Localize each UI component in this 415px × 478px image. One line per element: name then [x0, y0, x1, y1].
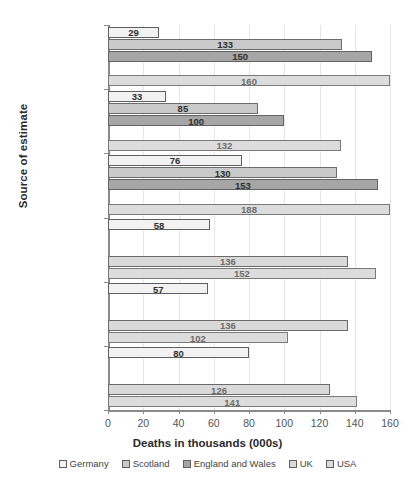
plot-area: 2913315016033851001327613015318858136152…: [108, 25, 390, 410]
x-axis-tick: [179, 410, 180, 414]
bar-uk[interactable]: [108, 384, 330, 395]
bar-row: 188: [108, 204, 390, 215]
bar-englandwales[interactable]: [108, 51, 372, 62]
bar-row: 133: [108, 39, 390, 50]
bar-row: 136: [108, 256, 390, 267]
bar-row: 102: [108, 332, 390, 343]
bar-usa[interactable]: [108, 268, 376, 279]
legend: GermanyScotlandEngland and WalesUKUSA: [0, 458, 415, 469]
bar-row: 29: [108, 27, 390, 38]
bar-usa[interactable]: [108, 75, 390, 86]
bar-row: 58: [108, 219, 390, 230]
bar-germany[interactable]: [108, 27, 159, 38]
x-axis-tick-label: 120: [311, 417, 329, 429]
bar-row: 150: [108, 51, 390, 62]
bar-row: 126: [108, 384, 390, 395]
legend-item-uk[interactable]: UK: [289, 458, 313, 469]
x-axis-tick-label: 40: [173, 417, 185, 429]
bar-row: 136: [108, 320, 390, 331]
bar-row: 160: [108, 75, 390, 86]
bar-row: 57: [108, 283, 390, 294]
x-axis-tick-label: 140: [346, 417, 364, 429]
legend-label: UK: [300, 458, 313, 469]
bar-row: 153: [108, 179, 390, 190]
x-axis-tick: [284, 410, 285, 414]
bar-row: 33: [108, 91, 390, 102]
bar-uk[interactable]: [108, 320, 348, 331]
x-axis-tick: [320, 410, 321, 414]
bar-row: 152: [108, 268, 390, 279]
bar-scotland[interactable]: [108, 103, 258, 114]
bar-englandwales[interactable]: [108, 179, 378, 190]
gridline: [390, 25, 391, 410]
x-axis-tick: [143, 410, 144, 414]
bar-usa[interactable]: [108, 396, 357, 407]
x-axis-tick-label: 160: [381, 417, 399, 429]
legend-swatch-icon: [326, 460, 334, 468]
legend-label: Germany: [70, 458, 109, 469]
legend-label: England and Wales: [194, 458, 276, 469]
legend-swatch-icon: [122, 460, 130, 468]
bar-chart: Source of estimate 291331501603385100132…: [0, 0, 415, 478]
x-axis-tick-label: 100: [275, 417, 293, 429]
x-axis-tick-label: 60: [208, 417, 220, 429]
legend-swatch-icon: [59, 460, 67, 468]
legend-item-englandwales[interactable]: England and Wales: [183, 458, 276, 469]
legend-item-germany[interactable]: Germany: [59, 458, 109, 469]
legend-swatch-icon: [183, 460, 191, 468]
legend-item-scotland[interactable]: Scotland: [122, 458, 170, 469]
bar-scotland[interactable]: [108, 39, 342, 50]
x-axis-tick: [249, 410, 250, 414]
legend-label: USA: [337, 458, 357, 469]
bar-germany[interactable]: [108, 91, 166, 102]
x-axis-tick: [108, 410, 109, 414]
bar-uk[interactable]: [108, 256, 348, 267]
bar-row: 100: [108, 115, 390, 126]
x-axis-tick-label: 0: [105, 417, 111, 429]
bar-scotland[interactable]: [108, 167, 337, 178]
bar-row: 85: [108, 103, 390, 114]
bar-row: 80: [108, 347, 390, 358]
bar-row: 76: [108, 155, 390, 166]
legend-item-usa[interactable]: USA: [326, 458, 357, 469]
bar-englandwales[interactable]: [108, 115, 284, 126]
bar-germany[interactable]: [108, 155, 242, 166]
bar-usa[interactable]: [108, 140, 341, 151]
y-axis-title: Source of estimate: [17, 71, 29, 241]
x-axis-tick: [390, 410, 391, 414]
bar-germany[interactable]: [108, 283, 208, 294]
x-axis-tick-label: 80: [243, 417, 255, 429]
bar-usa[interactable]: [108, 332, 288, 343]
x-axis-title: Deaths in thousands (000s): [0, 437, 415, 449]
bar-row: 132: [108, 140, 390, 151]
x-axis-tick: [355, 410, 356, 414]
bar-germany[interactable]: [108, 219, 210, 230]
bar-row: 130: [108, 167, 390, 178]
legend-label: Scotland: [133, 458, 170, 469]
x-axis-tick: [214, 410, 215, 414]
legend-swatch-icon: [289, 460, 297, 468]
bar-usa[interactable]: [108, 204, 390, 215]
bar-germany[interactable]: [108, 347, 249, 358]
x-axis-line: 020406080100120140160: [108, 410, 390, 412]
x-axis-tick-label: 20: [137, 417, 149, 429]
bar-row: 141: [108, 396, 390, 407]
